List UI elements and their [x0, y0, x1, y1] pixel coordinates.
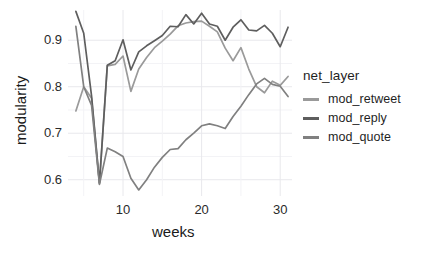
legend-key-line-icon: [303, 117, 319, 120]
series-line-mod_reply: [76, 11, 288, 183]
legend-item-label: mod_quote: [328, 130, 391, 144]
series-line-mod_retweet: [76, 21, 288, 183]
legend-item-label: mod_retweet: [328, 92, 401, 106]
legend-key-line-icon: [303, 136, 319, 139]
gridlines-group: [68, 10, 292, 196]
y-tick-label: 0.9: [26, 32, 62, 47]
legend-item-label: mod_reply: [328, 111, 387, 125]
x-tick-label: 30: [260, 202, 300, 217]
legend-item-mod_retweet[interactable]: mod_retweet: [303, 90, 431, 108]
legend-items-list: mod_retweetmod_replymod_quote: [303, 90, 431, 146]
y-tick-label: 0.8: [26, 79, 62, 94]
legend-item-mod_reply[interactable]: mod_reply: [303, 109, 431, 127]
x-axis-title: weeks: [152, 223, 195, 240]
y-tick-label: 0.7: [26, 125, 62, 140]
legend-title: net_layer: [303, 68, 431, 83]
legend: net_layer mod_retweetmod_replymod_quote: [303, 68, 431, 147]
y-tick-label: 0.6: [26, 172, 62, 187]
plot-area-container: modularity weeks 0.60.70.80.9102030: [0, 0, 300, 260]
legend-item-mod_quote[interactable]: mod_quote: [303, 128, 431, 146]
series-line-mod_quote: [76, 26, 288, 190]
x-tick-label: 20: [182, 202, 222, 217]
series-lines-group: [76, 11, 288, 190]
legend-key-line-icon: [303, 98, 319, 101]
chart-figure: modularity weeks 0.60.70.80.9102030 net_…: [0, 0, 431, 260]
x-tick-label: 10: [103, 202, 143, 217]
